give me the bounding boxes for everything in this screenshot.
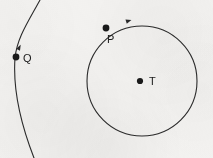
point-p-dot — [103, 25, 110, 32]
point-q-dot — [13, 54, 20, 61]
point-q-label: Q — [23, 52, 32, 64]
left-arc-curve — [15, 0, 40, 158]
diagram-canvas: Q P T — [0, 0, 213, 158]
point-p-label: P — [107, 33, 114, 45]
center-point-t-dot — [137, 78, 143, 84]
center-point-t-label: T — [149, 75, 156, 87]
geometry-figure: Q P T — [0, 0, 213, 158]
arrowhead-on-circle-icon — [125, 20, 131, 24]
